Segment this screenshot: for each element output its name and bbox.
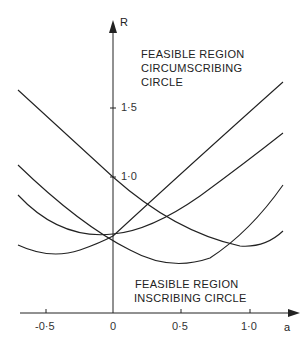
curve-1 bbox=[18, 90, 283, 246]
inscribing-label-2: INSCRIBING CIRCLE bbox=[134, 291, 247, 305]
x-tick-label: -0·5 bbox=[35, 320, 55, 332]
y-tick-label: 1·5 bbox=[121, 101, 137, 113]
x-axis-label: a bbox=[284, 320, 290, 334]
curve-3 bbox=[18, 133, 283, 235]
circumscribing-label-2: CIRCUMSCRIBING bbox=[141, 61, 242, 75]
x-tick-label: 1·0 bbox=[241, 320, 257, 332]
y-tick-label: 1·0 bbox=[121, 170, 137, 182]
circumscribing-label-1: FEASIBLE REGION bbox=[141, 47, 245, 61]
y-axis-arrow-icon bbox=[109, 20, 117, 33]
y-axis-label: R bbox=[120, 15, 128, 29]
curve-4 bbox=[18, 82, 283, 254]
x-axis-arrow-icon bbox=[288, 309, 300, 317]
circumscribing-label-3: CIRCLE bbox=[141, 75, 183, 89]
x-tick-label: 0 bbox=[110, 320, 116, 332]
inscribing-label-1: FEASIBLE REGION bbox=[135, 277, 239, 291]
curve-2 bbox=[18, 165, 283, 263]
x-tick-label: 0·5 bbox=[172, 320, 188, 332]
